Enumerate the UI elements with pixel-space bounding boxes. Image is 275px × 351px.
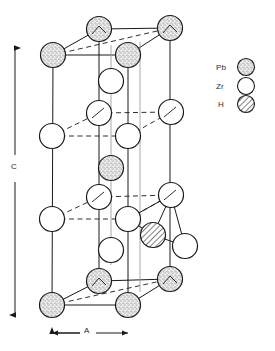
crystal-structure-figure [0, 0, 275, 351]
atom-h-interstitial [141, 223, 166, 248]
atom-pb-top-back-left [87, 17, 112, 42]
atom-zr-lower-axial [99, 238, 124, 263]
atom-zr-upper-front-right [116, 124, 141, 149]
atom-pb-bot-back-left [87, 269, 112, 294]
legend-label-h: H [218, 100, 224, 109]
atom-zr-upper-back-right [159, 100, 184, 125]
atom-pb-top-front-left [41, 43, 66, 68]
atom-zr-lower-back-right [159, 183, 184, 208]
edge-front-left-vertical [52, 55, 53, 305]
atom-pb-mid-axial [99, 156, 124, 181]
atom-zr-lower-front-left [40, 207, 65, 232]
legend-label-pb: Pb [216, 63, 226, 72]
a-axis [52, 331, 128, 336]
atom-zr-upper-front-left [40, 124, 65, 149]
atom-pb-top-back-right [158, 16, 183, 41]
atom-zr-lower-front-right [116, 207, 141, 232]
a-axis-left-arrowhead [52, 331, 58, 336]
atom-zr-upper-back-left [87, 101, 112, 126]
legend-label-zr: Zr [216, 82, 224, 91]
atom-zr-upper-axial [99, 69, 124, 94]
atom-zr-lower-back-left [87, 185, 112, 210]
legend-symbols [238, 59, 255, 113]
legend-swatch-zr [238, 78, 255, 95]
c-axis-label: C [11, 162, 17, 171]
atom-zr-right-outer [173, 234, 198, 259]
atom-pb-bot-front-right [116, 293, 141, 318]
a-axis-label: A [84, 326, 90, 335]
atom-pb-bot-back-right [158, 267, 183, 292]
atom-pb-top-front-right [116, 43, 141, 68]
atom-pb-bot-front-left [40, 293, 65, 318]
legend-swatch-pb [238, 59, 255, 76]
a-axis-right-arrowhead [122, 331, 128, 336]
legend-swatch-h [238, 96, 255, 113]
